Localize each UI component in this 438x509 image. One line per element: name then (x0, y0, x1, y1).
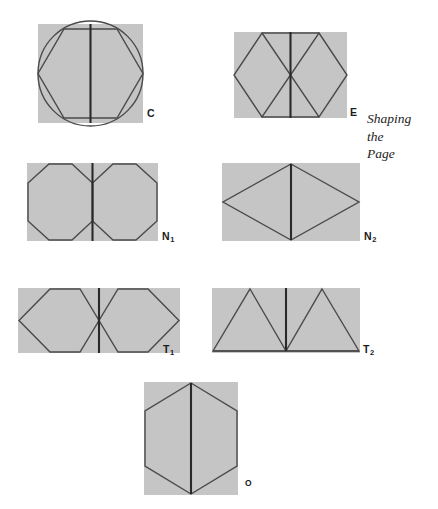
figure-t1-drawing (18, 288, 180, 353)
figure-label-n1: N1 (162, 231, 174, 242)
figure-label-e: E (350, 107, 357, 118)
figure-label-c-text: C (147, 107, 155, 119)
figure-label-t2-text: T (363, 343, 370, 355)
figure-n2-drawing (222, 163, 360, 241)
figure-c (28, 14, 154, 136)
figure-c-drawing (28, 14, 154, 136)
figure-n1 (27, 163, 158, 241)
figure-label-n2-subscript: 2 (372, 235, 376, 244)
figure-plate: C E N1 (0, 0, 438, 509)
figure-label-t1-text: T (163, 343, 170, 355)
figure-o-drawing (144, 382, 238, 495)
figure-label-e-text: E (350, 106, 357, 118)
figure-e (234, 32, 347, 118)
running-head: Shaping the Page (367, 110, 435, 163)
figure-label-n2-text: N (364, 230, 372, 242)
running-head-line-2: the (367, 128, 435, 146)
figure-label-t2-subscript: 2 (370, 348, 374, 357)
figure-label-o-text: O (245, 478, 252, 488)
figure-t1 (18, 288, 180, 353)
figure-label-o: O (245, 479, 252, 488)
figure-label-t2: T2 (363, 344, 374, 355)
figure-t2 (212, 288, 360, 353)
figure-label-c: C (147, 108, 155, 119)
figure-label-n1-text: N (162, 230, 170, 242)
figure-e-drawing (234, 32, 347, 118)
figure-t2-drawing (212, 288, 360, 353)
figure-label-n1-subscript: 1 (170, 235, 174, 244)
figure-label-t1-subscript: 1 (170, 348, 174, 357)
figure-n2 (222, 163, 360, 241)
figure-label-t1: T1 (163, 344, 174, 355)
figure-n1-drawing (27, 163, 158, 241)
running-head-line-1: Shaping (367, 110, 435, 128)
figure-label-n2: N2 (364, 231, 376, 242)
figure-o (144, 382, 238, 495)
running-head-line-3: Page (367, 145, 435, 163)
